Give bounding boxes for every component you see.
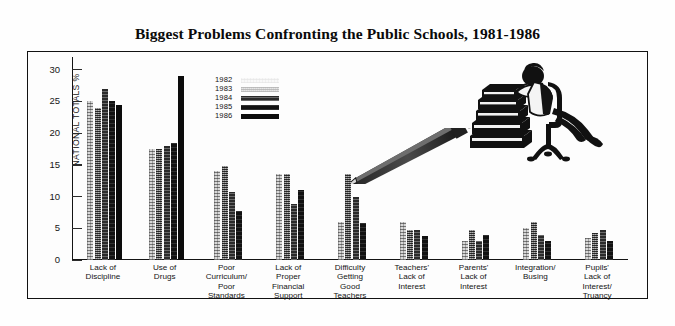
x-category-line: Interest/	[566, 282, 628, 291]
bar	[462, 241, 468, 260]
bar	[102, 89, 108, 260]
x-category-line: Lack of	[257, 263, 319, 272]
x-category-line: Financial	[257, 282, 319, 291]
bar	[414, 230, 420, 260]
bar	[291, 204, 297, 260]
bar	[284, 174, 290, 260]
bar	[338, 222, 344, 260]
x-category-line: Lack of	[443, 272, 505, 281]
bar	[353, 197, 359, 260]
bar-group	[462, 57, 490, 260]
bar	[592, 233, 598, 260]
x-category-line: Parents'	[443, 263, 505, 272]
bar	[545, 241, 551, 260]
bar	[531, 222, 537, 260]
x-category-line: Getting	[319, 272, 381, 281]
bar	[222, 166, 228, 260]
x-category-label: Lack ofDiscipline	[72, 263, 134, 282]
x-category-line: Teachers'	[381, 263, 443, 272]
bar	[236, 211, 242, 260]
x-category-line: Discipline	[72, 272, 134, 281]
bar	[214, 171, 220, 260]
bar	[422, 236, 428, 260]
x-category-line: Interest	[381, 282, 443, 291]
x-category-line: Poor	[196, 263, 258, 272]
bar-group	[400, 57, 428, 260]
x-category-line: Support	[257, 291, 319, 300]
bar	[116, 105, 122, 260]
x-category-line: Integration/	[504, 263, 566, 272]
x-category-line: Difficulty	[319, 263, 381, 272]
y-tick-label: 0	[38, 255, 60, 265]
bar	[87, 101, 93, 260]
bar	[483, 235, 489, 260]
bar	[276, 174, 282, 260]
bar	[95, 108, 101, 260]
bar	[585, 238, 591, 260]
bar	[407, 230, 413, 260]
x-category-label: DifficultyGettingGoodTeachers	[319, 263, 381, 301]
bar	[607, 241, 613, 260]
x-category-line: Poor	[196, 282, 258, 291]
y-tick-label: 25	[38, 96, 60, 106]
x-category-line: Proper	[257, 272, 319, 281]
x-axis-category-labels: Lack ofDisciplineUse ofDrugsPoorCurricul…	[72, 263, 628, 309]
bar	[229, 192, 235, 261]
y-tick-label: 30	[38, 65, 60, 75]
y-tick-label: 5	[38, 223, 60, 233]
bar	[600, 230, 606, 260]
bar	[523, 228, 529, 260]
x-category-label: Use ofDrugs	[134, 263, 196, 282]
x-category-label: Parents'Lack ofInterest	[443, 263, 505, 291]
y-tick-label: 20	[38, 128, 60, 138]
chart-axes: NATIONAL TOTALS % 302520151050	[72, 57, 628, 260]
bar	[360, 223, 366, 260]
x-category-line: Truancy	[566, 291, 628, 300]
x-category-line: Curriculum/	[196, 272, 258, 281]
bar	[538, 235, 544, 260]
x-category-label: Pupils'Lack ofInterest/Truancy	[566, 263, 628, 301]
x-category-line: Lack of	[566, 272, 628, 281]
bar	[109, 101, 115, 260]
x-category-label: Teachers'Lack ofInterest	[381, 263, 443, 291]
bar	[400, 222, 406, 260]
x-category-line: Standards	[196, 291, 258, 300]
x-category-line: Teachers	[319, 291, 381, 300]
x-category-label: PoorCurriculum/PoorStandards	[196, 263, 258, 301]
bar	[298, 190, 304, 260]
page-title: Biggest Problems Confronting the Public …	[0, 25, 675, 43]
bar-group	[585, 57, 613, 260]
x-category-line: Good	[319, 282, 381, 291]
bar-group	[214, 57, 242, 260]
bar-group	[276, 57, 304, 260]
x-category-line: Drugs	[134, 272, 196, 281]
x-category-line: Lack of	[72, 263, 134, 272]
x-category-line: Pupils'	[566, 263, 628, 272]
bar	[469, 230, 475, 260]
chart-figure: Biggest Problems Confronting the Public …	[0, 0, 675, 326]
x-category-label: Lack ofProperFinancialSupport	[257, 263, 319, 301]
y-tick-label: 10	[38, 192, 60, 202]
bar	[178, 76, 184, 260]
x-category-label: Integration/Busing	[504, 263, 566, 282]
bar	[171, 143, 177, 260]
bar	[156, 149, 162, 260]
bar	[149, 149, 155, 260]
x-category-line: Use of	[134, 263, 196, 272]
y-tick-label: 15	[38, 160, 60, 170]
bar-group	[149, 57, 184, 260]
bar	[345, 174, 351, 260]
bar-group	[523, 57, 551, 260]
x-category-line: Busing	[504, 272, 566, 281]
bar	[164, 146, 170, 260]
x-category-line: Lack of	[381, 272, 443, 281]
x-category-line: Interest	[443, 282, 505, 291]
bar-group	[87, 57, 122, 260]
bar-group	[338, 57, 366, 260]
bar	[476, 241, 482, 260]
bars-layer	[72, 57, 628, 260]
